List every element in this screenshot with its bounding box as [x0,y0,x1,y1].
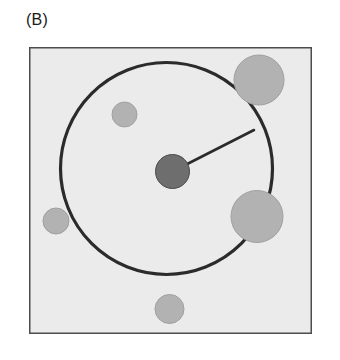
panel-label: (B) [26,10,48,30]
plot-frame [29,47,312,334]
plot-canvas [29,47,312,334]
neighbor-node-left[interactable] [43,208,69,234]
center-node[interactable] [156,155,190,189]
neighbor-node-top-right[interactable] [234,55,284,105]
figure-root: (B) [0,0,340,360]
neighbor-node-bottom[interactable] [155,295,184,324]
neighbor-node-right[interactable] [231,191,283,243]
neighbor-node-inner-top-left[interactable] [112,102,137,127]
